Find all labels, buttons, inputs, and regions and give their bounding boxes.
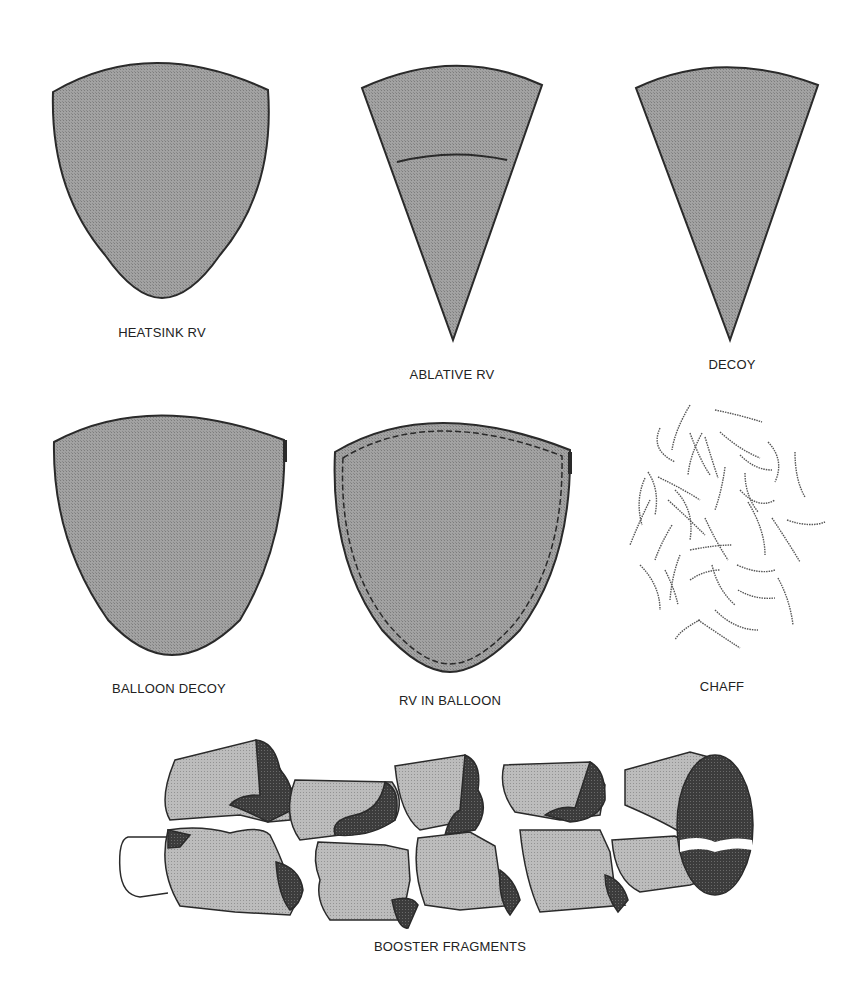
rv-in-balloon-label: RV IN BALLOON <box>399 693 501 708</box>
rv-in-balloon-shape <box>335 423 572 672</box>
decoy-label: DECOY <box>708 357 755 372</box>
heatsink-rv-label: HEATSINK RV <box>118 325 206 340</box>
diagram-svg <box>0 0 867 1002</box>
ablative-rv-label: ABLATIVE RV <box>410 367 495 382</box>
balloon-decoy-shape <box>54 415 287 655</box>
decoy-shape <box>636 67 818 340</box>
heatsink-rv-shape <box>53 63 269 298</box>
booster-fragments-shape <box>120 740 753 928</box>
booster-fragments-label: BOOSTER FRAGMENTS <box>374 939 526 954</box>
chaff-label: CHAFF <box>700 679 744 694</box>
threat-objects-diagram: HEATSINK RV ABLATIVE RV DECOY BALLOON DE… <box>0 0 867 1002</box>
ablative-rv-shape <box>362 66 542 340</box>
chaff-fibers <box>630 405 825 648</box>
balloon-decoy-label: BALLOON DECOY <box>112 681 226 696</box>
